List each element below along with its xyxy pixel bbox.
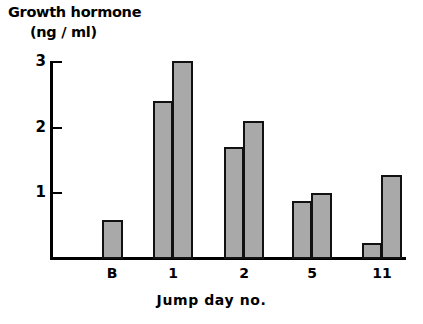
y-axis-line [50, 61, 53, 260]
bar-day2-2 [243, 121, 264, 259]
bar-day5-1 [292, 201, 312, 259]
y-tick-label-2: 2 [20, 118, 46, 136]
x-axis-title: Jump day no. [0, 292, 423, 308]
y-tick-mark-2 [53, 127, 62, 129]
x-tick-label-1: 1 [153, 265, 193, 281]
bar-day1-2 [172, 61, 193, 259]
bar-day2-1 [224, 147, 244, 259]
chart-figure: Growth hormone (ng / ml) 3 2 1 B 1 2 5 [0, 0, 423, 324]
x-tick-label-11: 11 [362, 265, 402, 281]
x-tick-label-2: 2 [224, 265, 264, 281]
x-tick-label-B: B [92, 265, 132, 281]
y-tick-mark-3 [53, 61, 62, 63]
x-tick-label-5: 5 [292, 265, 332, 281]
bar-day1-1 [153, 101, 173, 259]
y-tick-label-3: 3 [20, 52, 46, 70]
y-tick-mark-1 [53, 192, 62, 194]
y-tick-label-1: 1 [20, 183, 46, 201]
bar-day5-2 [311, 193, 332, 259]
bar-B-1 [102, 220, 123, 259]
plot-area: 3 2 1 B 1 2 5 11 [0, 0, 423, 324]
bar-day11-1 [362, 243, 382, 259]
bar-day11-2 [381, 175, 402, 259]
